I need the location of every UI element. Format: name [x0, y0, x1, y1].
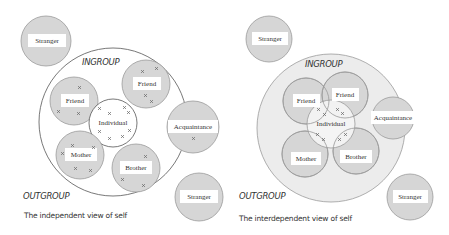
right-brother-node: Brother	[340, 150, 372, 163]
right-ingroup-label: INGROUP	[305, 59, 343, 69]
right-mother-node: Mother	[291, 152, 321, 165]
right-brother-label: Brother	[345, 153, 367, 161]
self-construal-diagram: Stranger INGROUP Friend Friend	[0, 0, 449, 235]
right-friend-right-node: Friend	[332, 88, 359, 101]
left-friend-right-node: Friend	[122, 60, 170, 108]
right-individual-label: Individual	[317, 120, 346, 128]
right-individual-node: Individual	[317, 120, 346, 128]
right-stranger-bottom-node: Stranger	[387, 174, 433, 220]
right-acquaintance-label: Acquaintance	[374, 114, 412, 122]
right-friend-right-label: Friend	[336, 91, 355, 99]
left-acquaintance-node: Acquaintance	[167, 101, 219, 153]
left-stranger-top-node: Stranger	[21, 16, 71, 66]
left-brother-node: Brother	[112, 144, 160, 192]
left-stranger-bottom-node: Stranger	[175, 173, 223, 221]
left-friend-right-label: Friend	[138, 80, 157, 88]
left-friend-left-label: Friend	[66, 97, 85, 105]
left-ingroup-label: INGROUP	[82, 57, 120, 67]
left-mother-node: Mother	[56, 131, 104, 179]
right-outgroup-label: OUTGROUP	[239, 191, 286, 201]
independent-view-diagram: Stranger INGROUP Friend Friend	[21, 16, 223, 221]
left-caption: The independent view of self	[23, 211, 128, 220]
right-caption: The interdependent view of self	[238, 214, 353, 223]
left-mother-label: Mother	[71, 151, 92, 159]
left-acquaintance-label: Acquaintance	[174, 123, 212, 131]
right-stranger-top-node: Stranger	[246, 16, 292, 62]
left-stranger-top-label: Stranger	[35, 37, 59, 45]
right-stranger-bottom-label: Stranger	[398, 193, 422, 201]
left-brother-label: Brother	[125, 164, 147, 172]
right-stranger-top-label: Stranger	[258, 35, 282, 43]
right-acquaintance-node: Acquaintance	[371, 97, 415, 139]
interdependent-view-diagram: Stranger INGROUP Acquaintance Friend	[238, 16, 433, 223]
left-stranger-bottom-label: Stranger	[187, 193, 211, 201]
right-friend-left-label: Friend	[297, 97, 316, 105]
right-mother-label: Mother	[296, 155, 317, 163]
right-friend-left-node: Friend	[293, 94, 320, 107]
left-individual-label: Individual	[99, 119, 128, 127]
left-outgroup-label: OUTGROUP	[23, 191, 70, 201]
